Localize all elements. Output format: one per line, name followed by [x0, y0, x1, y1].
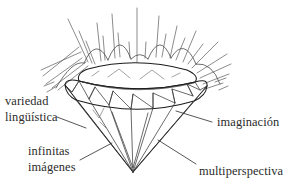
sparkle-ray	[200, 64, 231, 78]
leader-multiperspectiva	[158, 140, 196, 164]
pavilion-facet	[76, 100, 133, 172]
sparkle-ray	[68, 19, 88, 62]
star-facet	[108, 69, 130, 78]
sparkle-ray	[97, 23, 101, 61]
pavilion-facet	[133, 103, 175, 172]
sparkle-arc	[148, 45, 171, 59]
sparkle-ray	[170, 26, 177, 58]
label-infinitas-line2: imágenes	[28, 160, 76, 174]
star-facet	[172, 73, 180, 77]
star-facet	[92, 71, 99, 76]
leader-lines-group	[57, 111, 212, 164]
sparkle-ray	[183, 31, 196, 62]
sparkle-tick	[44, 82, 54, 86]
leader-infinitas	[80, 143, 112, 160]
sparkle-ray	[41, 52, 81, 70]
sparkle-ray	[103, 36, 105, 60]
star-facet	[140, 70, 164, 79]
diamond-figure: variedad lingüística imaginación infinit…	[0, 0, 290, 192]
label-infinitas-line1: infinitas	[28, 144, 70, 158]
sparkle-tick	[47, 86, 57, 92]
sparkle-ray	[156, 16, 159, 57]
label-variedad-line1: variedad	[5, 94, 49, 108]
diamond-illustration: variedad lingüística imaginación infinit…	[0, 0, 290, 192]
pavilion-inner-v	[112, 112, 148, 168]
label-variedad-line2: lingüística	[5, 110, 58, 124]
diamond-pavilion-group	[65, 85, 207, 172]
diamond-crown-group	[65, 63, 207, 110]
sparkle-rays-group	[41, 8, 231, 92]
pavilion-facet	[133, 108, 153, 172]
pavilion-sliver	[93, 108, 104, 118]
sparkle-tick	[219, 86, 228, 90]
leader-variedad	[57, 117, 86, 128]
sparkle-ray	[145, 42, 146, 58]
sparkle-ray	[176, 38, 185, 60]
label-multiperspectiva: multiperspectiva	[199, 164, 284, 178]
label-imaginacion: imaginación	[217, 115, 279, 129]
pavilion-facet	[133, 101, 194, 172]
